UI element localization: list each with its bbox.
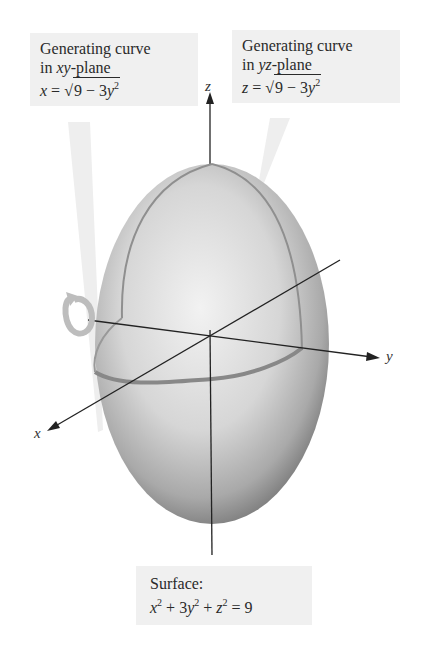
callout-equation: z = √9 − 3y2 (242, 74, 392, 97)
z-axis-label: z (205, 78, 211, 95)
yz-callout-pointer (258, 118, 290, 188)
callout-plane: in xy-plane (40, 58, 190, 77)
callout-title: Generating curve (40, 39, 190, 58)
callout-equation: x = √9 − 3y2 (40, 77, 190, 100)
y-axis-arrowhead (366, 352, 380, 361)
callout-yz-generating-curve: Generating curve in yz-plane z = √9 − 3y… (232, 30, 400, 103)
x-axis-label: x (34, 425, 41, 442)
callout-title: Surface: (150, 574, 300, 593)
callout-surface-equation: Surface: x2 + 3y2 + z2 = 9 (136, 566, 312, 625)
y-axis-label: y (386, 348, 393, 365)
callout-equation: x2 + 3y2 + z2 = 9 (150, 593, 300, 617)
callout-xy-generating-curve: Generating curve in xy-plane x = √9 − 3y… (30, 33, 198, 106)
x-axis-arrowhead (47, 421, 60, 431)
callout-title: Generating curve (242, 36, 392, 55)
xy-callout-pointer (68, 122, 103, 432)
callout-plane: in yz-plane (242, 55, 392, 74)
ellipsoid-surface (95, 164, 329, 524)
